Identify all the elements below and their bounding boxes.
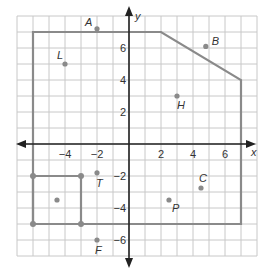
- y-tick-label: 6: [120, 42, 126, 54]
- point-l: [62, 61, 67, 66]
- axes: [16, 6, 256, 268]
- x-tick-label: 2: [158, 148, 164, 160]
- y-tick-label: −4: [113, 202, 126, 214]
- grid-lines: [17, 16, 257, 256]
- y-tick-label: −2: [113, 170, 126, 182]
- point-label: H: [177, 99, 185, 111]
- point-label: P: [172, 202, 180, 214]
- y-tick-label: −6: [113, 234, 126, 246]
- x-tick-label: −4: [59, 148, 72, 160]
- vertex-dot: [30, 173, 36, 179]
- point-label: C: [199, 172, 207, 184]
- x-axis-label: x: [250, 146, 257, 158]
- point-b: [203, 44, 208, 49]
- point-label: B: [212, 35, 219, 47]
- point-label: A: [84, 16, 92, 28]
- vertex-dot: [30, 221, 36, 227]
- y-tick-label: 2: [120, 106, 126, 118]
- point-c: [198, 185, 203, 190]
- point-p: [166, 197, 171, 202]
- x-tick-label: 4: [190, 148, 196, 160]
- y-axis-up-arrow-icon: [125, 6, 133, 16]
- point-label: F: [95, 244, 103, 256]
- point-a: [94, 26, 99, 31]
- point-unlabeled: [54, 197, 59, 202]
- point-f: [94, 237, 99, 242]
- vertex-dot: [78, 221, 84, 227]
- y-axis-down-arrow-icon: [125, 258, 133, 268]
- x-tick-label: −2: [91, 148, 104, 160]
- y-tick-label: 4: [120, 74, 126, 86]
- point-h: [174, 93, 179, 98]
- point-label: T: [96, 177, 104, 189]
- point-t: [94, 170, 99, 175]
- point-label: L: [57, 49, 63, 61]
- vertex-dot: [78, 173, 84, 179]
- x-tick-label: 6: [222, 148, 228, 160]
- coordinate-plane: −4−2246642−2−4−6 ABLHTCPF x y: [0, 0, 273, 277]
